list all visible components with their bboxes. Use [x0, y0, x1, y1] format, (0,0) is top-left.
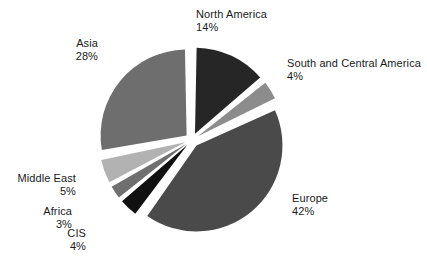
slice-label-value: 5% — [0, 185, 76, 198]
slice-label-name: Africa — [6, 205, 72, 218]
pie-chart-figure: North America 14% South and Central Amer… — [0, 0, 427, 267]
slice-label-value: 42% — [292, 205, 328, 218]
slice-label-asia: Asia 28% — [50, 37, 98, 63]
slice-label-name: Asia — [50, 37, 98, 50]
pie-slice-group — [101, 48, 283, 232]
slice-label-name: Europe — [292, 192, 328, 205]
slice-label-value: 4% — [36, 240, 86, 253]
slice-label-name: Middle East — [0, 172, 76, 185]
slice-label-south-and-central-america: South and Central America 4% — [287, 57, 421, 83]
slice-label-middle-east: Middle East 5% — [0, 172, 76, 198]
slice-label-name: South and Central America — [287, 57, 421, 70]
slice-label-north-america: North America 14% — [196, 8, 267, 34]
slice-label-europe: Europe 42% — [292, 192, 328, 218]
slice-label-value: 4% — [287, 70, 421, 83]
slice-label-value: 14% — [196, 21, 267, 34]
slice-label-africa: Africa 3% — [6, 205, 72, 231]
slice-label-value: 28% — [50, 50, 98, 63]
slice-label-value: 3% — [6, 218, 72, 231]
pie-slice-asia — [101, 50, 187, 150]
slice-label-name: North America — [196, 8, 267, 21]
